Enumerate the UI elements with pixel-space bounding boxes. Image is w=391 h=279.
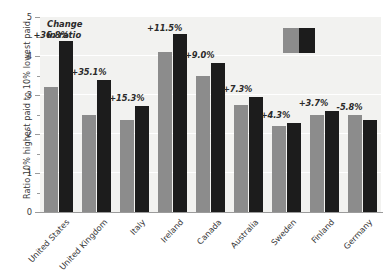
x-tick-label: Germany [341,217,374,251]
legend [283,28,315,53]
bar-group [234,17,263,212]
x-tick-label: Finland [309,217,336,245]
bar-group [196,17,225,212]
bar-later [135,106,149,212]
x-tick-label: Sweden [269,217,298,247]
chart-figure: Ratio 10% highest paid to 10% lowest pai… [0,0,391,279]
x-tick-label: Ireland [158,217,185,245]
bar-later [287,123,301,212]
y-tick-label: 1 [18,168,32,178]
bar-group [44,17,73,212]
legend-swatch-later [299,28,315,53]
y-tick-label: 3 [18,90,32,100]
change-in-ratio-caption: Change in ratio [47,19,82,40]
annotation-7.3: +7.3% [223,84,252,94]
y-tick-label: 2 [18,129,32,139]
bar-group [120,17,149,212]
annotation-5.8: -5.8% [337,102,363,112]
annotation-4.3: +4.3% [261,110,290,120]
annotation-11.5: +11.5% [147,23,182,33]
bar-earlier [120,120,134,212]
annotation-35.1: +35.1% [71,67,106,77]
bar-later [325,111,339,212]
plot-area: +36.8%+35.1%+15.3%+11.5%+9.0%+7.3%+4.3%+… [40,17,381,212]
bar-group [348,17,377,212]
bar-group [82,17,111,212]
bar-earlier [310,115,324,213]
bar-earlier [158,52,172,212]
annotation-9.0: +9.0% [185,50,214,60]
bar-earlier [272,126,286,212]
caption-line-2: in ratio [47,30,82,41]
bar-earlier [348,115,362,213]
x-axis-line [40,212,383,213]
x-tick-label: Italy [128,217,147,237]
bar-earlier [44,87,58,212]
legend-swatch-earlier [283,28,299,53]
y-tick-label: 5 [18,12,32,22]
bar-group [158,17,187,212]
bar-earlier [82,115,96,213]
x-tick-label: Australia [229,217,261,250]
bar-later [363,120,377,212]
y-tick-mark [35,212,40,213]
bar-later [173,34,187,212]
y-axis-title: Ratio 10% highest paid to 10% lowest pai… [22,10,32,210]
x-tick-label: Canada [194,217,223,247]
annotation-15.3: +15.3% [109,93,144,103]
y-tick-label: 0 [18,207,32,217]
annotation-3.7: +3.7% [299,98,328,108]
y-tick-label: 4 [18,51,32,61]
bar-earlier [234,105,248,212]
bar-earlier [196,76,210,213]
caption-line-1: Change [47,19,82,30]
